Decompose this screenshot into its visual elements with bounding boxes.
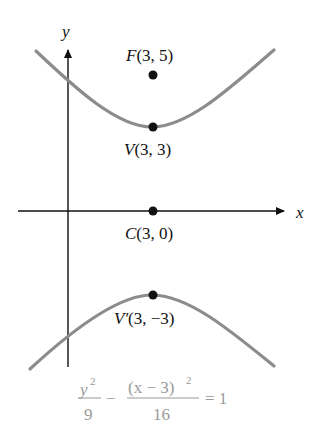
eq-term1-exponent: 2 <box>90 375 96 387</box>
vertex-prime-label: V′(3, −3) <box>114 309 175 328</box>
eq-minus: − <box>106 389 116 408</box>
x-axis-label: x <box>295 203 304 222</box>
lower-branch <box>30 295 274 369</box>
hyperbola-diagram: y x F(3, 5) V(3, 3) C(3, 0) V′(3, −3) y … <box>0 0 321 446</box>
center-label: C(3, 0) <box>125 224 173 243</box>
eq-term1-numerator: y <box>78 380 88 399</box>
center-point <box>149 207 158 216</box>
focus-label: F(3, 5) <box>125 46 173 65</box>
vertex-prime-point <box>149 291 158 300</box>
eq-term1-denominator: 9 <box>84 405 93 424</box>
eq-rhs: = 1 <box>205 389 227 408</box>
y-axis-label: y <box>60 22 70 41</box>
eq-term2-denominator: 16 <box>153 405 170 424</box>
focus-point <box>149 71 158 80</box>
eq-term2-exponent: 2 <box>186 374 192 386</box>
eq-term2-numerator: (x − 3) <box>128 378 174 397</box>
vertex-point <box>149 123 158 132</box>
hyperbola-equation: y 2 9 − (x − 3) 2 16 = 1 <box>78 374 227 424</box>
vertex-label: V(3, 3) <box>124 140 171 159</box>
